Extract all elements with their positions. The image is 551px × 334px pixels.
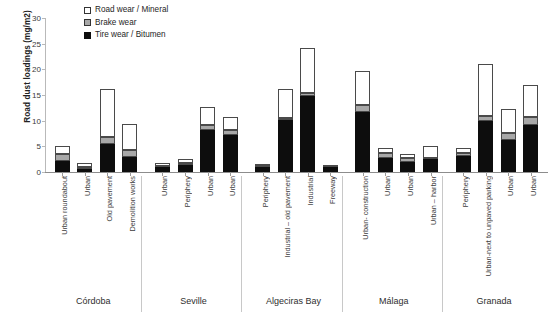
bar-segment-brake	[278, 118, 293, 120]
bar[interactable]	[355, 71, 370, 172]
group-separator	[141, 176, 142, 312]
bar-segment-road	[200, 107, 215, 124]
bar-segment-road	[478, 64, 493, 116]
bar[interactable]	[55, 146, 70, 172]
category-label: Periphery	[458, 176, 473, 207]
category-label: Urban-next to unpaved parking	[481, 176, 496, 276]
bar-segment-tire	[456, 156, 471, 172]
bar-segment-tire	[355, 112, 370, 172]
category-label: Urban roundabout	[57, 176, 72, 235]
bar[interactable]	[255, 164, 270, 172]
bar[interactable]	[100, 89, 115, 172]
category-label: Periphery	[258, 176, 273, 207]
bar[interactable]	[178, 159, 193, 172]
bar-segment-brake	[223, 130, 238, 135]
bar[interactable]	[300, 48, 315, 172]
bar[interactable]	[200, 107, 215, 172]
group-label: Granada	[476, 296, 511, 306]
category-label: Old pavement	[102, 176, 117, 221]
category-label: Urban	[380, 176, 395, 196]
category-label: Urban	[80, 176, 95, 196]
bar-segment-tire	[178, 165, 193, 172]
category-label: Urban	[225, 176, 240, 196]
legend-item[interactable]: Road wear / Mineral	[84, 4, 168, 17]
y-axis-title: Road dust loadings (mg/m2)	[23, 0, 32, 137]
group-labels: CórdobaSevilleAlgeciras BayMálagaGranada	[45, 296, 548, 312]
category-label: Industrial	[303, 176, 318, 206]
bar[interactable]	[501, 109, 516, 172]
bar-segment-brake	[378, 153, 393, 158]
bar-segment-tire	[378, 158, 393, 172]
bar-segment-road	[355, 71, 370, 105]
bar-segment-road	[55, 146, 70, 153]
bar-segment-brake	[300, 93, 315, 95]
bar-segment-road	[523, 85, 538, 117]
bar-segment-tire	[55, 161, 70, 172]
bar[interactable]	[223, 117, 238, 172]
bar-segment-road	[456, 148, 471, 153]
stacked-bar-chart: Road dust loadings (mg/m2) Road wear / M…	[0, 0, 551, 334]
y-axis-tick-label: 20	[32, 65, 41, 74]
bar-segment-tire	[200, 130, 215, 172]
road-swatch-icon	[84, 7, 91, 14]
bar[interactable]	[456, 148, 471, 172]
bar[interactable]	[378, 148, 393, 172]
bar[interactable]	[400, 154, 415, 172]
bar-segment-road	[77, 163, 92, 167]
group-separator	[241, 176, 242, 312]
bar[interactable]	[122, 124, 137, 172]
bar[interactable]	[523, 85, 538, 172]
category-label: Periphery	[180, 176, 195, 207]
bar-segment-road	[501, 109, 516, 133]
group-separator	[442, 176, 443, 312]
bar-segment-tire	[223, 135, 238, 172]
bar-segment-road	[423, 146, 438, 157]
bar-segment-tire	[122, 157, 137, 172]
group-label: Algeciras Bay	[266, 296, 321, 306]
bar-segment-brake	[122, 150, 137, 157]
group-separator	[342, 176, 343, 312]
bar-segment-brake	[523, 117, 538, 125]
group-label: Málaga	[379, 296, 409, 306]
category-label: Urban	[403, 176, 418, 196]
category-label: Urban	[203, 176, 218, 196]
bar-segment-road	[100, 89, 115, 137]
bar-segment-tire	[501, 140, 516, 172]
bar-segment-brake	[501, 133, 516, 140]
category-label: Freeway	[325, 176, 340, 204]
bar-segment-tire	[100, 144, 115, 172]
plot-area: 051015202530	[45, 18, 548, 172]
category-labels: Urban roundaboutUrbanOld pavementDemolit…	[45, 176, 548, 280]
bar-segment-road	[400, 154, 415, 159]
bar-segment-tire	[300, 96, 315, 172]
bar[interactable]	[478, 64, 493, 172]
bar-segment-tire	[400, 162, 415, 172]
category-label: Industrial – old pavement	[280, 176, 295, 258]
bar-segment-brake	[100, 137, 115, 145]
y-axis-tick-label: 0	[37, 168, 41, 177]
bar-segment-tire	[523, 125, 538, 172]
bar[interactable]	[278, 89, 293, 172]
bar[interactable]	[77, 163, 92, 172]
bar[interactable]	[155, 163, 170, 172]
y-axis-tick-label: 25	[32, 39, 41, 48]
category-label: Urban- construction	[358, 176, 373, 240]
bar-segment-tire	[278, 120, 293, 172]
bar-segment-brake	[456, 153, 471, 156]
x-axis-line	[45, 172, 548, 173]
category-label: Urban	[157, 176, 172, 196]
bar-segment-brake	[77, 167, 92, 169]
bar-segment-road	[223, 117, 238, 130]
category-label: Urban	[526, 176, 541, 196]
bar-segment-road	[323, 165, 338, 167]
y-axis-tick-label: 10	[32, 116, 41, 125]
group-label: Seville	[180, 296, 207, 306]
bar[interactable]	[423, 146, 438, 172]
bar-segment-road	[122, 124, 137, 150]
bar-segment-tire	[478, 121, 493, 172]
category-label: Demolition works	[125, 176, 140, 232]
bar-segment-road	[300, 48, 315, 94]
category-label: Urban – harbor	[426, 176, 441, 225]
group-label: Córdoba	[76, 296, 111, 306]
bar-segment-road	[278, 89, 293, 118]
